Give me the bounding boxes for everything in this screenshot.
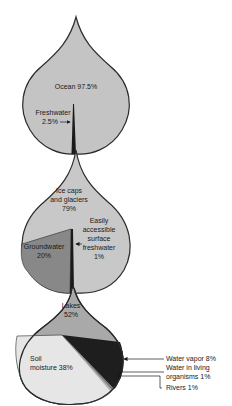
label-ice-3: 79% <box>62 205 76 212</box>
label-rivers: Rivers 1% <box>166 384 198 391</box>
label-surface-4: freshwater <box>83 244 116 251</box>
label-freshwater-2: 2.5% <box>42 118 58 125</box>
label-surface-2: accessible <box>83 226 116 233</box>
label-groundwater-2: 20% <box>37 252 51 259</box>
drop-freshwater <box>21 150 130 293</box>
label-water-vapor: Water vapor 8% <box>166 355 216 363</box>
label-surface-5: 1% <box>94 253 104 260</box>
label-organisms-1: Water in living <box>166 364 210 372</box>
label-ice-2: and glaciers <box>50 196 88 204</box>
label-ocean: Ocean 97.5% <box>55 83 97 90</box>
label-soil-1: Soil <box>30 355 42 362</box>
label-ice-1: Ice caps <box>56 187 83 195</box>
label-lakes-1: Lakes <box>62 302 81 309</box>
water-distribution-diagram: Ocean 97.5% Freshwater 2.5% Ice caps and… <box>0 0 232 406</box>
label-lakes-2: 52% <box>64 311 78 318</box>
label-freshwater-1: Freshwater <box>35 109 71 116</box>
label-soil-2: moisture 38% <box>30 364 73 371</box>
label-surface-1: Easily <box>90 217 109 225</box>
label-surface-3: surface <box>88 235 111 242</box>
arrow-rivers <box>117 376 162 388</box>
label-groundwater-1: Groundwater <box>24 243 65 250</box>
label-organisms-2: organisms 1% <box>166 373 210 381</box>
